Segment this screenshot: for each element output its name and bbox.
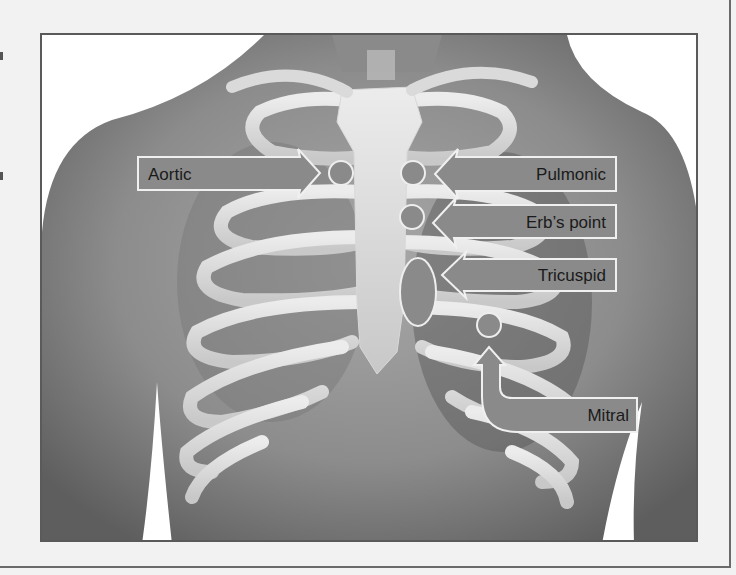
margin-mark xyxy=(0,172,3,180)
anatomy-svg: Aortic Pulmonic Erb’s point Tricuspid Mi… xyxy=(42,35,698,542)
margin-mark xyxy=(0,52,3,60)
erbs-point-site xyxy=(400,205,424,229)
pulmonic-label: Pulmonic xyxy=(536,165,606,184)
mitral-site xyxy=(477,313,501,337)
aortic-label: Aortic xyxy=(148,165,192,184)
tricuspid-site xyxy=(400,258,436,326)
tricuspid-label: Tricuspid xyxy=(538,266,606,285)
pulmonic-site xyxy=(401,161,425,185)
chest-illustration: Aortic Pulmonic Erb’s point Tricuspid Mi… xyxy=(40,33,698,542)
mitral-label: Mitral xyxy=(587,406,629,425)
erbs-point-label: Erb’s point xyxy=(526,213,606,232)
aortic-site xyxy=(329,161,353,185)
